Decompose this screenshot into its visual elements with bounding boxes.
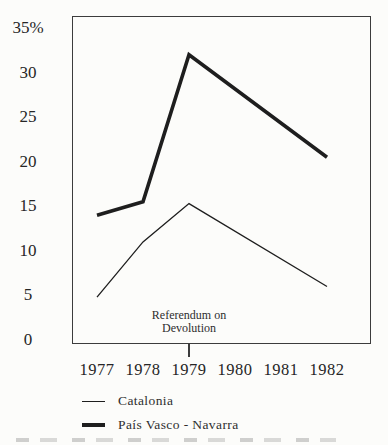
y-axis-tick-label: 0 — [6, 330, 50, 349]
annotation-line-2: Devolution — [124, 322, 254, 335]
legend-label-pais-vasco-navarra: País Vasco - Navarra — [118, 417, 239, 433]
y-axis-tick-label: 25 — [6, 107, 50, 126]
x-axis-tick-label: 1977 — [72, 360, 122, 380]
referendum-tick-mark — [188, 344, 190, 357]
cropped-caption-remnant — [16, 438, 336, 442]
legend-row-catalonia: Catalonia — [82, 389, 342, 413]
y-axis-tick-label: 20 — [6, 152, 50, 171]
scanned-book-figure: 35%302520151050 197719781979198019811982… — [0, 0, 388, 445]
x-axis-tick-label: 1982 — [302, 360, 352, 380]
plot-area-frame — [72, 16, 371, 344]
catalonia-line-swatch — [82, 401, 105, 402]
x-axis-tick-label: 1978 — [118, 360, 168, 380]
y-axis-tick-label: 10 — [6, 241, 50, 260]
referendum-annotation: Referendum on Devolution — [124, 309, 254, 335]
y-axis-tick-label: 30 — [6, 63, 50, 82]
x-axis-tick-label: 1981 — [256, 360, 306, 380]
y-axis-tick-label: 35% — [6, 18, 50, 37]
legend: Catalonia País Vasco - Navarra — [82, 389, 342, 437]
pais-vasco-navarra-line-swatch — [82, 423, 105, 427]
y-axis-tick-label: 15 — [6, 196, 50, 215]
legend-row-pais-vasco-navarra: País Vasco - Navarra — [82, 413, 342, 437]
x-axis-tick-label: 1979 — [164, 360, 214, 380]
x-axis-tick-label: 1980 — [210, 360, 260, 380]
legend-label-catalonia: Catalonia — [118, 393, 173, 409]
y-axis-tick-label: 5 — [6, 285, 50, 304]
